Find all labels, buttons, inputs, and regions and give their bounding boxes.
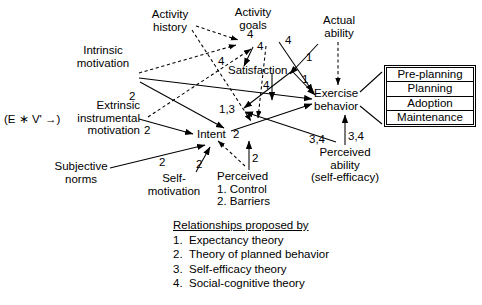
stage-row-planning[interactable]: Planning	[387, 82, 473, 96]
legend: Relationships proposed by 1. Expectancy …	[173, 218, 329, 291]
legend-list: 1. Expectancy theory 2. Theory of planne…	[173, 233, 329, 291]
edge-label-extrinsic-to-intent: 2	[144, 124, 150, 136]
edge-label-intrinsic-out: 2	[129, 90, 135, 102]
legend-item-3: 3. Self-efficacy theory	[173, 262, 329, 277]
edge-label-ability-to-intent: 3,4	[309, 133, 325, 145]
edge-subjective-to-intent	[110, 145, 205, 168]
node-perceived-ability: Perceived ability (self-efficacy)	[300, 146, 390, 184]
edge-label-selfmotivation-to-intent: 2	[196, 158, 202, 170]
legend-item-2: 2. Theory of planned behavior	[173, 247, 329, 262]
edge-label-ability-to-exercise: 3,4	[348, 130, 364, 142]
edge-control-dashed-to-intent	[218, 141, 245, 166]
edge-label-goals-to-satisfaction: 4	[257, 40, 263, 52]
node-intrinsic-motivation: Intrinsic motivation	[66, 44, 140, 69]
edge-label-subjective-to-intent: 2	[159, 156, 165, 168]
edge-label-intent-out: 2	[233, 128, 239, 140]
edge-intrinsic-to-intent	[140, 82, 224, 128]
node-satisfaction: Satisfaction	[228, 64, 296, 77]
stage-row-adoption[interactable]: Adoption	[387, 97, 473, 111]
edge-label-cross-left-4: 4	[218, 55, 224, 67]
legend-item-3-label: Self-efficacy theory	[189, 262, 287, 277]
node-subjective-norms: Subjective norms	[48, 160, 114, 185]
legend-item-1: 1. Expectancy theory	[173, 233, 329, 248]
edge-label-control-to-intent: 2	[252, 152, 258, 164]
edge-label-satisfaction-to-exercise: 1	[302, 73, 308, 85]
node-self-motivation: Self- motivation	[138, 172, 210, 197]
node-ev-expression: (E ∗ V' →)	[4, 112, 60, 126]
edge-label-goals-to-exercise: 4	[285, 34, 291, 46]
legend-item-3-number: 3.	[173, 262, 189, 277]
node-extrinsic-motivation: Extrinsic instrumental motivation	[58, 99, 140, 137]
exercise-stages-box: Pre-planning Planning Adoption Maintenan…	[384, 65, 476, 127]
edge-label-satisfaction-down: 4	[263, 79, 269, 91]
legend-title: Relationships proposed by	[173, 218, 329, 233]
legend-item-2-label: Theory of planned behavior	[189, 247, 329, 262]
edge-label-intent-path: 1,3	[219, 103, 235, 115]
stage-row-pre-planning[interactable]: Pre-planning	[387, 68, 473, 82]
diagram-canvas: Activity history Activity goals Actual a…	[0, 0, 482, 305]
legend-item-1-number: 1.	[173, 233, 189, 248]
edge-label-actual-ability-to-exercise: 1	[306, 51, 312, 63]
legend-item-4-number: 4.	[173, 276, 189, 291]
node-intent: Intent	[197, 128, 231, 141]
legend-item-4: 4. Social-cognitive theory	[173, 276, 329, 291]
legend-item-4-label: Social-cognitive theory	[189, 276, 305, 291]
legend-item-2-number: 2.	[173, 247, 189, 262]
edge-extrinsic-to-goals	[148, 49, 251, 117]
node-actual-ability: Actual ability	[310, 14, 368, 39]
node-perceived-control: Perceived 1. Control 2. Barriers	[217, 170, 293, 208]
legend-item-1-label: Expectancy theory	[189, 233, 284, 248]
stage-row-maintenance[interactable]: Maintenance	[387, 111, 473, 124]
node-activity-history: Activity history	[140, 8, 200, 33]
node-exercise-behavior: Exercise behavior	[314, 87, 378, 112]
edge-label-history-to-goals: 4	[247, 28, 253, 40]
